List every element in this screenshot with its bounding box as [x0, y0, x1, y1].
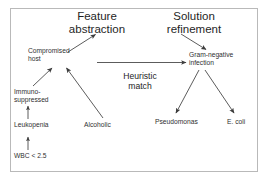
node-alcoholic: Alcoholic: [84, 121, 126, 129]
node-heuristic-match: Heuristic match: [112, 72, 168, 91]
node-compromised-host: Compromised host: [28, 47, 84, 62]
node-leukopenia: Leukopenia: [14, 121, 60, 129]
diagram-canvas: Feature abstraction Solution refinement …: [0, 0, 270, 182]
node-ecoli: E. coli: [227, 118, 257, 126]
node-feature-abstraction: Feature abstraction: [58, 10, 136, 36]
node-solution-refinement: Solution refinement: [152, 10, 236, 36]
node-gram-negative-infection: Gram-negative infection: [189, 51, 241, 66]
node-wbc-threshold: WBC < 2.5: [14, 152, 62, 160]
node-pseudomonas: Pseudomonas: [155, 118, 207, 126]
node-immuno-suppressed: Immuno- suppressed: [14, 88, 60, 103]
